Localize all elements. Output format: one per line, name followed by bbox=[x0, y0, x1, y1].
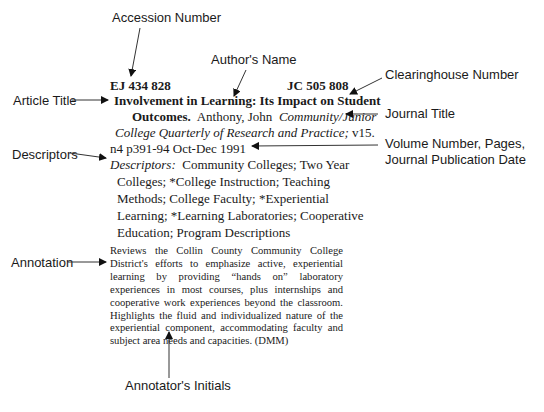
arrow-author-icon bbox=[234, 70, 246, 96]
arrows-layer bbox=[0, 0, 544, 412]
arrow-clearinghouse-icon bbox=[350, 78, 382, 94]
arrow-accession-icon bbox=[131, 28, 140, 76]
arrow-descriptors-icon bbox=[70, 153, 106, 158]
arrow-volume-icon bbox=[252, 145, 378, 146]
